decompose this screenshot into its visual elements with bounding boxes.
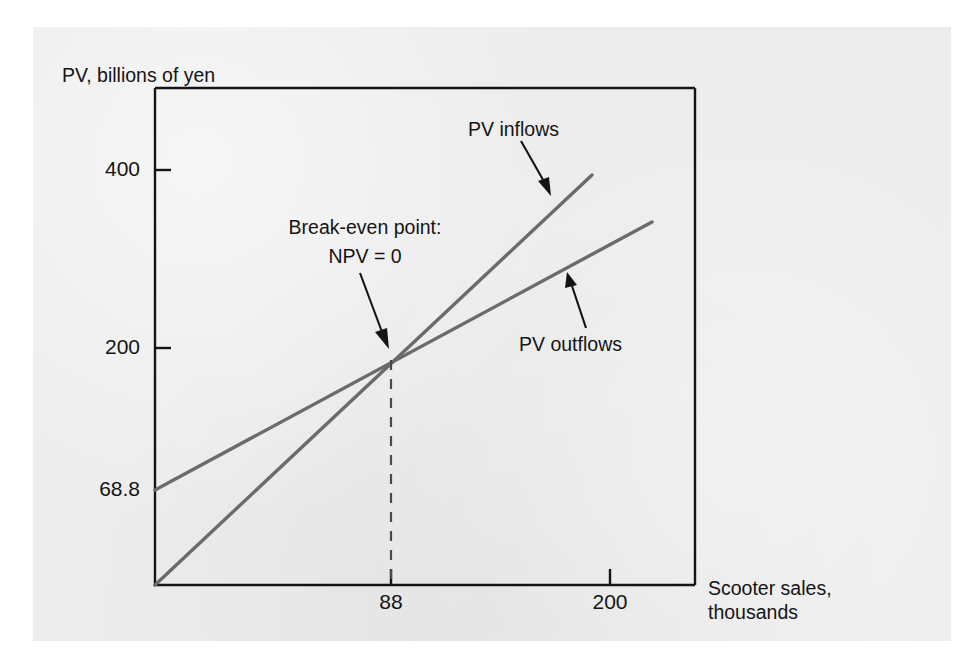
x-tick-label-88: 88 xyxy=(351,590,431,615)
breakeven-arrow xyxy=(360,273,389,349)
figure-root: PV, billions of yen Scooter sales, thous… xyxy=(0,0,978,669)
pv-outflows-arrow xyxy=(565,272,586,328)
x-axis-ticks xyxy=(391,569,610,585)
y-axis-title: PV, billions of yen xyxy=(62,64,215,87)
breakeven-label-line2: NPV = 0 xyxy=(250,245,480,268)
pv-inflows-label: PV inflows xyxy=(468,118,559,141)
pv-inflows-arrow xyxy=(521,141,551,196)
chart-graphic xyxy=(0,0,978,669)
y-axis-ticks xyxy=(155,170,171,348)
breakeven-label-line1: Break-even point: xyxy=(250,216,480,239)
y-tick-label-400: 400 xyxy=(46,157,140,182)
y-tick-label-200: 200 xyxy=(46,335,140,360)
y-tick-label-68-8: 68.8 xyxy=(36,477,140,502)
x-axis-title-line2: thousands xyxy=(708,601,798,624)
pv-outflows-label: PV outflows xyxy=(519,333,622,356)
x-tick-label-200: 200 xyxy=(570,590,650,615)
x-axis-title-line1: Scooter sales, xyxy=(708,577,832,600)
